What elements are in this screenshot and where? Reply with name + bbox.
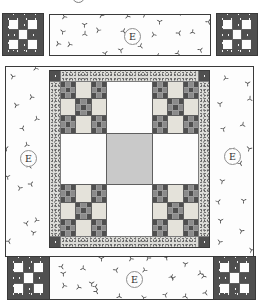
dark-print-square [19, 20, 28, 29]
sprig-motif-icon [6, 170, 14, 183]
sprig-motif-icon [186, 26, 199, 39]
sprig-motif-icon [172, 47, 183, 56]
left-border-strip: E [6, 67, 49, 256]
medium-square [76, 105, 80, 110]
small-nine-patch [184, 82, 198, 98]
white-square [242, 40, 251, 49]
dark-print-square [153, 231, 157, 236]
dark-print-square [9, 30, 18, 39]
sprig-motif-icon [153, 15, 165, 27]
sprig-motif [113, 270, 125, 282]
medium-square [92, 88, 96, 93]
dark-print-square [153, 128, 157, 133]
dark-print-square [71, 197, 75, 202]
dark-print-square [194, 231, 198, 236]
medium-square [158, 185, 162, 190]
dark-print-square [158, 226, 162, 231]
medium-square [61, 88, 65, 93]
light-square [92, 99, 106, 115]
light-square [168, 82, 182, 98]
dark-print-square [97, 226, 101, 231]
dark-print-square [168, 99, 172, 104]
white-square [24, 273, 33, 282]
medium-square [66, 231, 70, 236]
bottom-border-unit: E [7, 256, 256, 300]
light-square [153, 203, 167, 219]
dark-print-square [92, 82, 96, 87]
light-square [61, 203, 75, 219]
dark-print-square [184, 116, 188, 121]
small-nine-patch [153, 220, 167, 236]
white-square [220, 263, 229, 272]
dark-print-square [34, 273, 43, 282]
dark-print-square [184, 82, 188, 87]
cornerstone-bottom-right [199, 237, 209, 247]
sprig-motif [6, 240, 18, 252]
cropped-label-circle [72, 0, 85, 3]
sprig-motif-icon [180, 291, 191, 299]
dark-print-square [92, 116, 96, 121]
light-square [184, 99, 198, 115]
sprig-motif [27, 184, 39, 196]
white-square [28, 40, 37, 49]
light-square [76, 185, 90, 201]
sprig-motif-icon [238, 194, 250, 206]
dark-print-square [87, 203, 91, 208]
sprig-motif-icon [173, 27, 185, 39]
dark-print-square [81, 208, 85, 213]
nine-patch [220, 263, 249, 293]
medium-square [61, 122, 65, 127]
corner-nine-patch-block-top-right [216, 13, 258, 56]
white-square [19, 30, 28, 39]
dark-print-square [184, 185, 188, 190]
dark-print-square [233, 20, 242, 29]
dark-print-square [189, 226, 193, 231]
white-square [28, 20, 37, 29]
corner-nine-patch-block-bottom-left [8, 257, 49, 299]
medium-square [81, 111, 85, 116]
medallion-center-grid [61, 82, 198, 236]
dark-print-square [163, 128, 167, 133]
sprig-motif [211, 172, 224, 185]
sprig-motif-icon [115, 44, 128, 56]
medium-square [97, 93, 101, 98]
medium-square [189, 197, 193, 202]
medium-square [66, 82, 70, 87]
sprig-motif [15, 218, 25, 228]
dark-print-square [71, 185, 75, 190]
dark-print-square [168, 111, 172, 116]
sprig-motif [173, 270, 185, 282]
sprig-motif-icon [201, 288, 211, 298]
dark-print-square [81, 105, 85, 110]
medium-square [153, 226, 157, 231]
medium-square [189, 93, 193, 98]
sprig-motif [148, 14, 160, 24]
dark-print-square [163, 197, 167, 202]
sprig-motif [68, 285, 81, 298]
medium-square [102, 88, 106, 93]
sprig-motif-icon [6, 235, 15, 247]
sprig-motif-icon [17, 124, 26, 133]
quilt-center-section: E E [5, 66, 254, 257]
sprig-motif [176, 14, 188, 24]
sprig-motif-icon [92, 24, 104, 36]
medium-square [173, 214, 177, 219]
dark-print-square [194, 220, 198, 225]
white-square [220, 284, 229, 293]
dark-print-square [102, 93, 106, 98]
medium-square [158, 116, 162, 121]
white-square [34, 284, 43, 293]
dark-print-square [61, 231, 65, 236]
sprig-motif [97, 260, 106, 269]
sprig-motif [73, 15, 85, 27]
white-square [9, 20, 18, 29]
sprig-motif [174, 257, 187, 267]
small-nine-patch [184, 116, 198, 132]
white-square [9, 40, 18, 49]
dark-print-square [223, 30, 232, 39]
sprig-motif-icon [78, 263, 88, 273]
dark-print-square [97, 191, 101, 196]
stipple-border-left [50, 82, 60, 236]
sprig-motif-icon [110, 264, 122, 276]
medium-square [168, 208, 172, 213]
